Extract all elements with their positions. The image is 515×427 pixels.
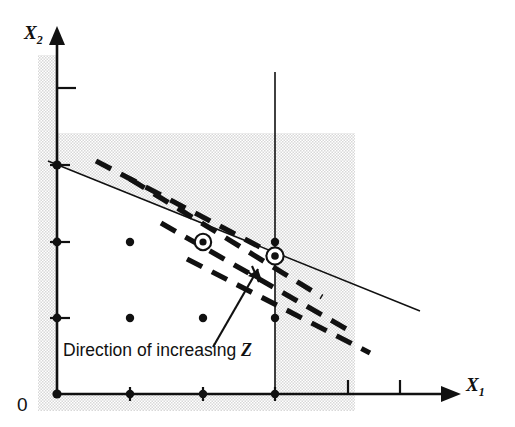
lattice-point <box>126 314 134 322</box>
lp-graph-svg <box>0 0 515 427</box>
lattice-point <box>126 390 134 398</box>
figure-canvas: X2 X1 0 Direction of increasing Z <box>0 0 515 427</box>
x-axis-label-subscript: 1 <box>479 385 485 399</box>
lattice-point <box>53 314 62 323</box>
x-axis-label-text: X <box>466 374 479 395</box>
direction-annotation-text: Direction of increasing <box>63 340 241 360</box>
y-axis-label-subscript: 2 <box>37 33 43 47</box>
lattice-point <box>199 314 207 322</box>
x-axis-arrowhead <box>441 386 461 402</box>
lattice-point <box>271 390 279 398</box>
lattice-point <box>199 390 207 398</box>
y-axis-label: X2 <box>24 22 43 48</box>
lattice-point <box>52 389 61 398</box>
highlighted-point-core <box>199 238 206 245</box>
lattice-point <box>271 238 279 246</box>
origin-label: 0 <box>17 394 28 416</box>
highlighted-point-core <box>271 252 279 260</box>
lattice-point <box>53 238 62 247</box>
y-axis-label-text: X <box>24 22 37 43</box>
lattice-point <box>52 160 61 169</box>
y-axis-arrowhead <box>49 26 65 45</box>
direction-annotation-label: Direction of increasing Z <box>63 340 252 361</box>
lattice-point <box>126 238 134 246</box>
x-axis-label: X1 <box>466 374 485 400</box>
lattice-point <box>271 314 279 322</box>
direction-annotation-emphasis: Z <box>241 340 252 360</box>
